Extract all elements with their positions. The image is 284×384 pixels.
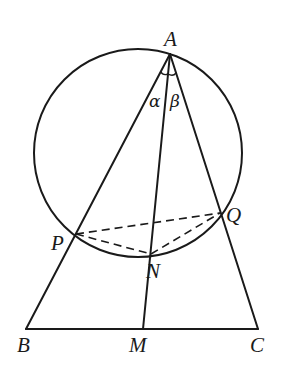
geometry-diagram: α β A B M C P Q N: [0, 0, 284, 384]
angle-arc-beta: [168, 73, 176, 75]
angle-arc-alpha: [161, 72, 168, 75]
point-label-n: N: [145, 259, 161, 283]
point-label-p: P: [50, 231, 64, 255]
dashed-nq: [151, 213, 220, 254]
point-label-a: A: [162, 27, 177, 51]
point-label-m: M: [128, 333, 148, 357]
circle: [34, 49, 242, 257]
point-label-q: Q: [226, 203, 241, 227]
point-label-b: B: [17, 333, 30, 357]
angle-label-alpha: α: [149, 91, 161, 111]
angle-label-beta: β: [169, 91, 180, 111]
segment-ac: [170, 54, 258, 329]
point-label-c: C: [250, 333, 265, 357]
dashed-pq: [76, 213, 220, 234]
